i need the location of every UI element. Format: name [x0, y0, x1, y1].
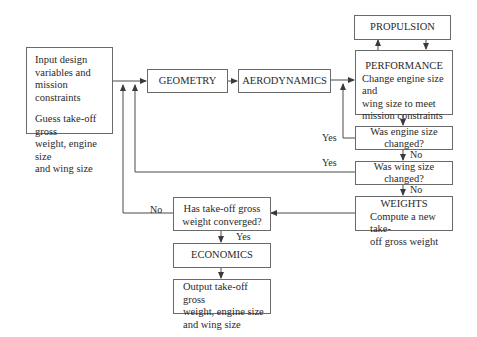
converged-check-box: Has take-off gross weight converged?: [173, 197, 271, 231]
output-line-2: weight, engine size: [183, 306, 270, 319]
converged-no-label: No: [150, 204, 162, 215]
engine-check-label: Was engine size changed?: [356, 126, 452, 151]
economics-label: ECONOMICS: [191, 249, 253, 262]
weights-box: WEIGHTS Compute a new take- off gross we…: [355, 196, 453, 231]
performance-line-3: mission constraints: [362, 110, 452, 123]
geometry-label: GEOMETRY: [159, 75, 217, 88]
input-line-3: mission constraints: [35, 79, 112, 104]
weights-line-1: Compute a new take-: [370, 211, 452, 236]
aerodynamics-box: AERODYNAMICS: [238, 69, 331, 93]
performance-line-1: Change engine size and: [362, 73, 452, 98]
performance-title: PERFORMANCE: [362, 60, 452, 73]
converged-line-1: Has take-off gross: [174, 203, 270, 216]
engine-no-label: No: [410, 149, 422, 160]
economics-box: ECONOMICS: [173, 243, 271, 268]
weights-title: WEIGHTS: [370, 198, 452, 211]
output-line-1: Output take-off gross: [183, 281, 270, 306]
performance-line-2: wing size to meet: [362, 98, 452, 111]
wing-yes-label: Yes: [322, 157, 337, 168]
geometry-box: GEOMETRY: [147, 69, 228, 93]
weights-line-2: off gross weight: [370, 236, 452, 249]
input-line-1: Input design: [35, 54, 112, 67]
output-line-3: and wing size: [183, 319, 270, 332]
propulsion-label: PROPULSION: [370, 21, 435, 34]
converged-line-2: weight converged?: [174, 216, 270, 229]
engine-yes-label: Yes: [322, 132, 337, 143]
input-line-6: and wing size: [35, 163, 112, 176]
engine-check-box: Was engine size changed?: [355, 126, 453, 150]
output-box: Output take-off gross weight, engine siz…: [173, 279, 271, 314]
input-line-4: Guess take-off gross: [35, 113, 112, 138]
input-line-5: weight, engine size: [35, 138, 112, 163]
wing-no-label: No: [410, 184, 422, 195]
wing-check-box: Was wing size changed?: [355, 161, 453, 185]
propulsion-box: PROPULSION: [354, 15, 451, 40]
converged-yes-label: Yes: [236, 231, 251, 242]
performance-box: PERFORMANCE Change engine size and wing …: [355, 50, 453, 115]
aerodynamics-label: AERODYNAMICS: [242, 75, 327, 88]
input-box: Input design variables and mission const…: [26, 47, 113, 134]
input-line-2: variables and: [35, 67, 112, 80]
wing-check-label: Was wing size changed?: [356, 161, 452, 186]
